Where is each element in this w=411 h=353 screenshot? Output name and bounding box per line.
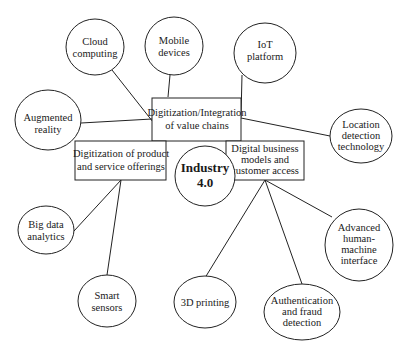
pillar-products: Digitization of productand service offer… <box>73 141 169 180</box>
node-cloud: Cloudcomputing <box>66 19 124 75</box>
industry40-diagram: Cloudcomputing Mobiledevices IoTplatform… <box>0 0 411 353</box>
connector-location <box>241 118 330 136</box>
connector-ar <box>81 119 152 123</box>
svg-text:Big dataanalytics: Big dataanalytics <box>27 219 64 242</box>
pillar-value-chains: Digitization/Integrationof value chains <box>147 98 247 141</box>
node-iot: IoTplatform <box>234 23 296 83</box>
svg-text:Advancedhuman-machineinterface: Advancedhuman-machineinterface <box>338 222 381 266</box>
node-hmi: Advancedhuman-machineinterface <box>325 209 393 281</box>
connector-sensors <box>107 180 121 275</box>
connector-mobile <box>168 75 170 97</box>
pillar-business-models: Digital businessmodels andcustomer acces… <box>226 141 304 180</box>
connector-auth <box>265 180 302 284</box>
node-location: Locationdetectiontechnology <box>330 109 392 163</box>
node-ar: Augmentedreality <box>15 90 81 150</box>
svg-text:Locationdetectiontechnology: Locationdetectiontechnology <box>338 119 385 152</box>
node-bigdata: Big dataanalytics <box>18 206 74 254</box>
svg-text:3D printing: 3D printing <box>181 297 230 308</box>
connector-hmi <box>265 180 332 217</box>
node-printing: 3D printing <box>174 276 236 328</box>
svg-text:Smartsensors: Smartsensors <box>92 290 123 313</box>
svg-text:Digital businessmodels andcust: Digital businessmodels andcustomer acces… <box>231 143 299 176</box>
node-auth: Authenticationand frauddetection <box>264 284 340 340</box>
node-industry40: Industry4.0 <box>175 146 235 206</box>
connector-bigdata <box>74 180 121 231</box>
node-sensors: Smartsensors <box>78 275 136 327</box>
svg-text:Mobiledevices: Mobiledevices <box>158 35 190 58</box>
node-mobile: Mobiledevices <box>145 17 203 75</box>
